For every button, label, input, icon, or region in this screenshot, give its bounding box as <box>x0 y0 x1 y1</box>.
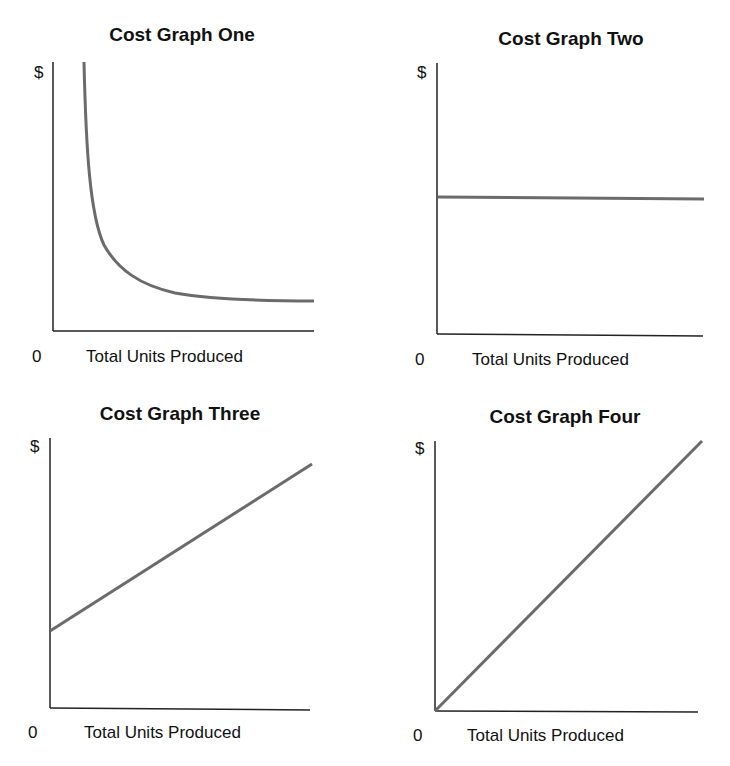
graph-four-origin-label: 0 <box>413 726 422 746</box>
graph-three-x-axis <box>50 708 310 710</box>
graph-two-x-axis <box>437 334 703 336</box>
cost-graphs-canvas <box>0 0 730 766</box>
graph-two-x-label: Total Units Produced <box>472 350 629 370</box>
graph-one-curve <box>84 62 314 301</box>
graph-three-x-label: Total Units Produced <box>84 723 241 743</box>
graph-two-origin-label: 0 <box>415 350 424 370</box>
graph-two-y-label: $ <box>417 63 426 83</box>
graph-three-origin-label: 0 <box>28 723 37 743</box>
graph-two-line <box>438 197 704 199</box>
graph-three-plot <box>50 438 312 710</box>
graph-four-y-label: $ <box>415 439 424 459</box>
graph-two-plot <box>437 63 704 336</box>
graph-one-title: Cost Graph One <box>109 24 255 46</box>
graph-one-x-label: Total Units Produced <box>86 347 243 367</box>
graph-one-plot <box>53 62 314 331</box>
graph-three-y-label: $ <box>30 437 39 457</box>
graph-four-title: Cost Graph Four <box>490 406 641 428</box>
graph-four-x-axis <box>435 711 698 712</box>
graph-four-plot <box>435 441 702 712</box>
graph-one-y-label: $ <box>34 63 43 83</box>
graph-four-x-label: Total Units Produced <box>467 726 624 746</box>
graph-three-title: Cost Graph Three <box>100 403 260 425</box>
graph-four-line <box>435 441 702 711</box>
graph-three-line <box>50 464 312 631</box>
graph-two-title: Cost Graph Two <box>498 28 643 50</box>
graph-one-origin-label: 0 <box>32 347 41 367</box>
